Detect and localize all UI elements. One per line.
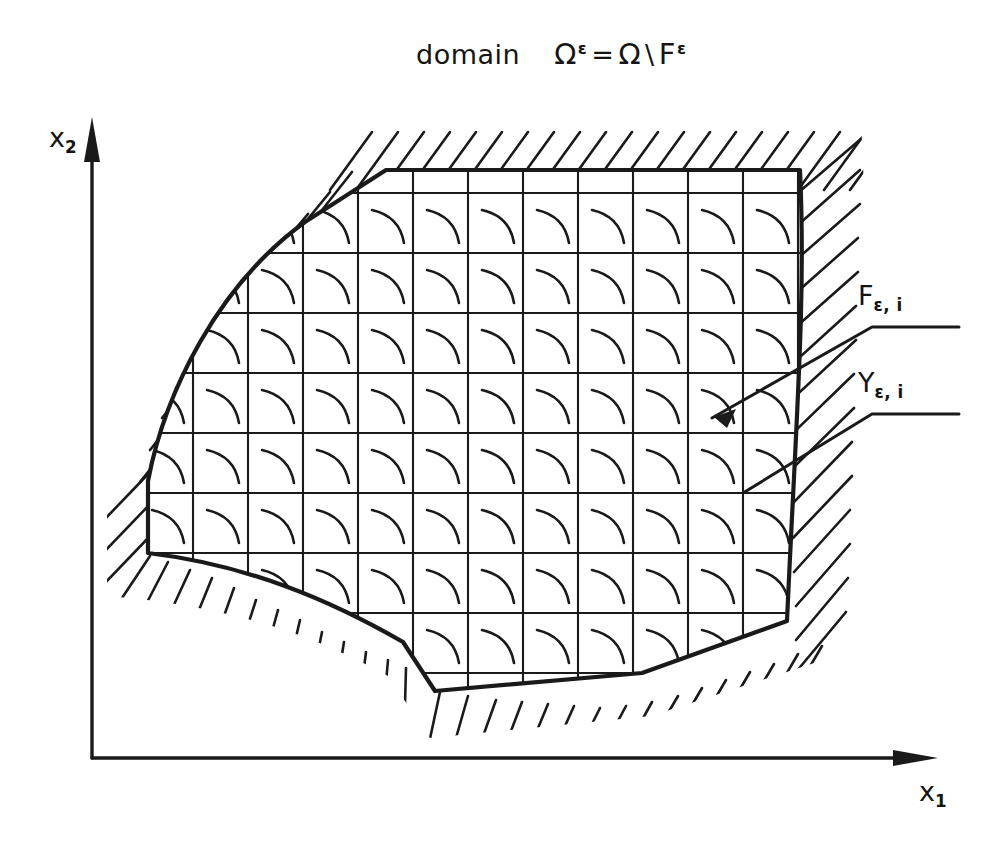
x-axis-label-base: x [919, 776, 935, 807]
callout-label-y-base: Y [858, 367, 875, 398]
callout-label-f-subscript: ε, i [874, 295, 903, 315]
callout-label-y-subscript: ε, i [875, 382, 904, 402]
callout-leader-y [743, 414, 959, 493]
title-lhs-superscript: ε [578, 39, 588, 58]
callout-label-f-base: F [858, 280, 874, 311]
x-axis-label: x1 [919, 778, 947, 810]
exterior-hatching [104, 132, 892, 764]
title-setminus: \ [645, 39, 655, 70]
title-rhs-base: Ω [618, 37, 641, 71]
y-axis-arrowhead [84, 117, 100, 162]
figure-canvas: domainΩε=Ω\Fε Fε, i Yε, i x2 x1 [0, 0, 988, 842]
y-axis-label-base: x [49, 122, 65, 153]
title-rhs-term-superscript: ε [677, 39, 687, 58]
callout-leaders [712, 327, 959, 493]
x-axis-label-subscript: 1 [935, 791, 947, 811]
y-axis-label-subscript: 2 [65, 137, 77, 157]
title-equals: = [591, 39, 614, 70]
callout-label-f: Fε, i [858, 282, 903, 314]
x-axis-arrowhead [893, 750, 938, 766]
callout-label-y: Yε, i [858, 369, 904, 401]
domain-diagram [0, 0, 988, 842]
title-rhs-term-base: F [659, 37, 676, 71]
figure-title: domainΩε=Ω\Fε [416, 40, 686, 69]
title-word: domain [416, 39, 520, 70]
periodic-lattice-grid [120, 150, 830, 710]
y-axis-label: x2 [49, 124, 77, 156]
title-lhs-base: Ω [554, 37, 577, 71]
